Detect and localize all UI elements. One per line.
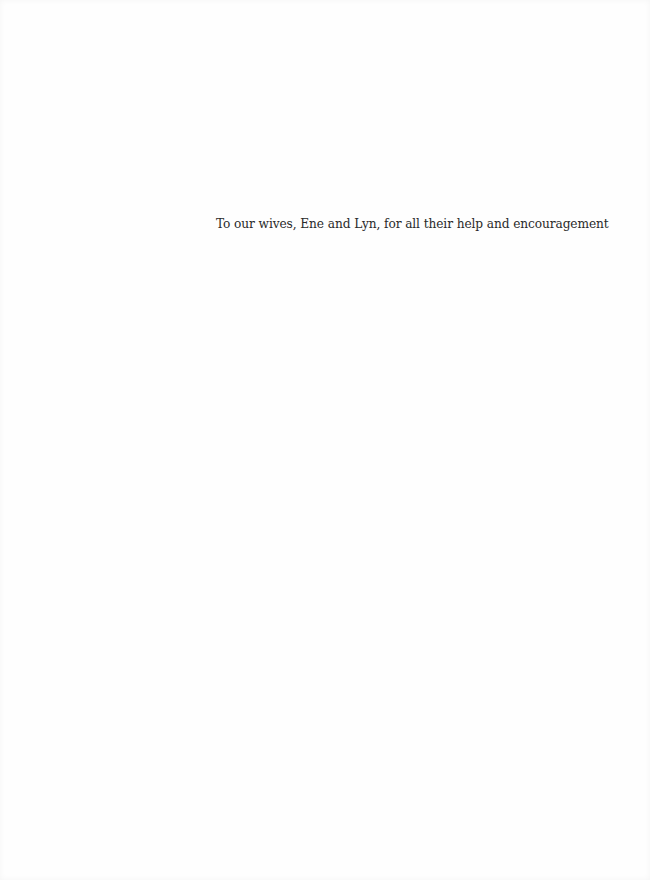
dedication-page: To our wives, Ene and Lyn, for all their… [0, 0, 650, 880]
dedication-text: To our wives, Ene and Lyn, for all their… [216, 217, 609, 231]
